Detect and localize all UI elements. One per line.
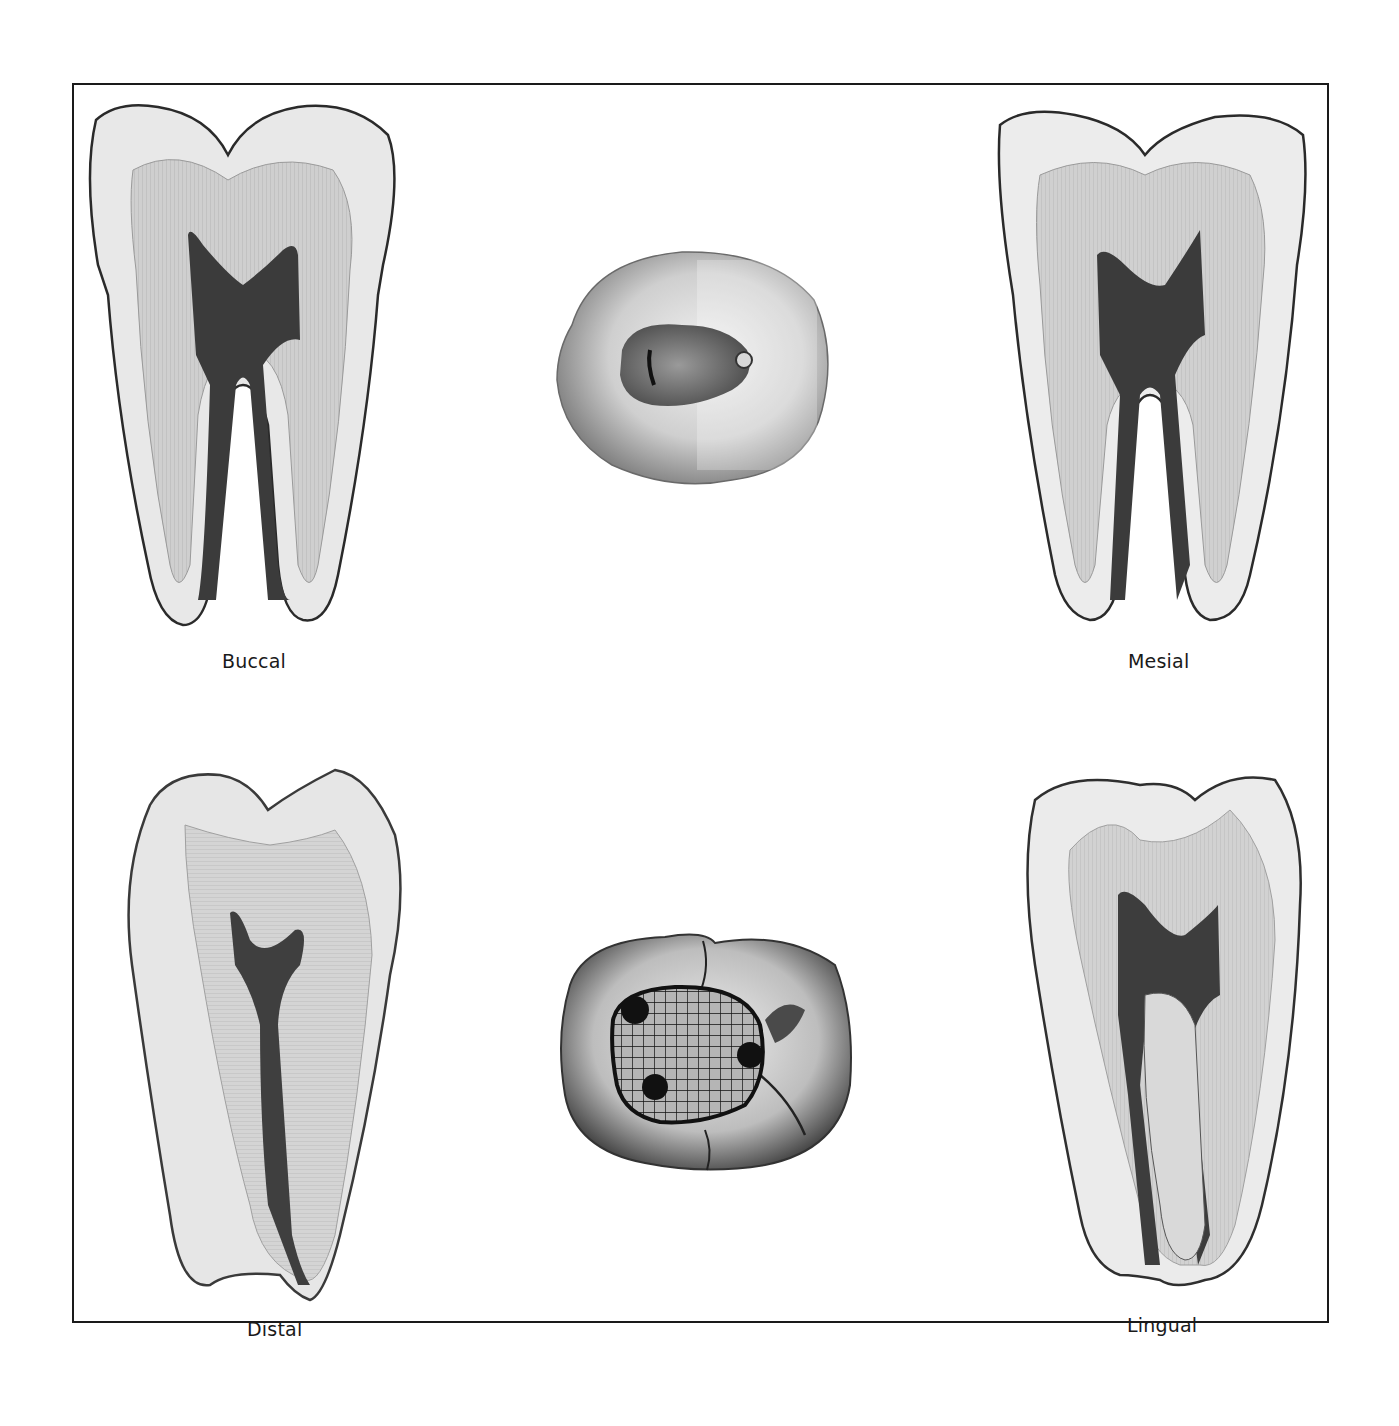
tooth-mesial-illustration xyxy=(985,95,1315,640)
occlusal-access-illustration xyxy=(552,240,842,500)
tooth-lingual-section xyxy=(1000,765,1310,1295)
tooth-lingual-illustration xyxy=(1000,765,1310,1295)
tooth-buccal-section xyxy=(78,95,408,640)
tooth-distal-illustration xyxy=(110,765,410,1305)
tooth-mesial-section xyxy=(985,95,1315,640)
tooth-distal-section xyxy=(110,765,410,1305)
occlusal-access-cavity-view xyxy=(552,240,842,500)
occlusal-outline-grid-view xyxy=(555,925,855,1175)
label-buccal: Buccal xyxy=(222,650,286,672)
label-distal: Distal xyxy=(247,1318,302,1340)
label-lingual: Lingual xyxy=(1127,1314,1197,1336)
occlusal-grid-illustration xyxy=(555,925,855,1175)
tooth-buccal-illustration xyxy=(78,95,408,640)
label-mesial: Mesial xyxy=(1128,650,1189,672)
